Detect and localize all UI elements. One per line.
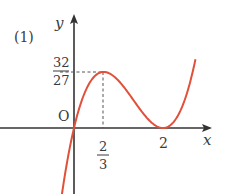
function-curve xyxy=(60,59,196,194)
origin-label: O xyxy=(58,108,69,124)
max-x-numerator: 2 xyxy=(99,139,107,154)
max-x-denominator: 3 xyxy=(99,157,107,172)
y-axis-label: y xyxy=(54,14,64,32)
max-y-denominator: 27 xyxy=(53,73,70,88)
max-y-numerator: 32 xyxy=(53,55,70,70)
problem-label: (1) xyxy=(14,29,34,45)
root-x-label: 2 xyxy=(159,135,168,151)
graph-canvas: (1) y x O 32 27 2 3 2 xyxy=(0,0,226,194)
x-axis-label: x xyxy=(203,131,212,149)
